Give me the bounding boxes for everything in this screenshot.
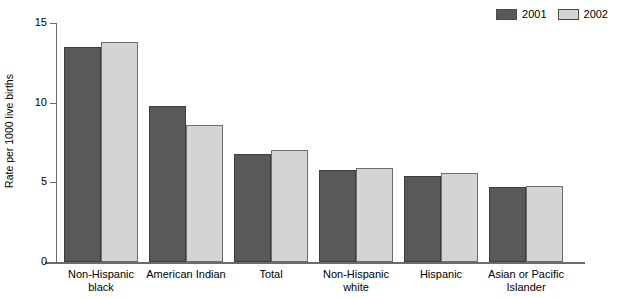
legend-swatch-2001 bbox=[496, 9, 517, 20]
bar-2001 bbox=[489, 187, 526, 262]
y-axis-title: Rate per 1000 live births bbox=[1, 0, 17, 262]
y-tick-10 bbox=[50, 103, 56, 104]
bar-2001 bbox=[234, 154, 271, 262]
bar-2002 bbox=[186, 125, 223, 262]
bar-2001 bbox=[64, 47, 101, 262]
y-tick-5 bbox=[50, 182, 56, 183]
plot-area bbox=[57, 23, 585, 262]
legend-label-2001: 2001 bbox=[522, 9, 546, 20]
x-axis-label-line: Asian or Pacific bbox=[471, 268, 581, 281]
y-tick-0 bbox=[50, 262, 56, 263]
y-axis-title-text: Rate per 1000 live births bbox=[3, 74, 15, 188]
x-axis-line bbox=[45, 262, 585, 264]
bar-2002 bbox=[101, 42, 138, 262]
legend-item-2002: 2002 bbox=[558, 9, 608, 20]
legend-label-2002: 2002 bbox=[584, 9, 608, 20]
bar-group bbox=[64, 23, 138, 262]
bar-2001 bbox=[404, 176, 441, 262]
bar-2002 bbox=[356, 168, 393, 262]
y-tick-label-15: 15 bbox=[26, 17, 47, 28]
x-axis-label-line: Islander bbox=[471, 281, 581, 294]
chart-legend: 2001 2002 bbox=[496, 9, 608, 20]
bar-2002 bbox=[526, 186, 563, 262]
x-axis-label-line: black bbox=[46, 281, 156, 294]
y-tick-label-5: 5 bbox=[26, 176, 47, 187]
x-axis-label: Asian or PacificIslander bbox=[471, 268, 581, 293]
bar-2002 bbox=[271, 150, 308, 262]
bar-chart: 2001 2002 Rate per 1000 live births 1510… bbox=[0, 0, 620, 298]
y-tick-label-0: 0 bbox=[26, 256, 47, 267]
bar-group bbox=[149, 23, 223, 262]
y-tick-15 bbox=[50, 23, 56, 24]
bar-2001 bbox=[319, 170, 356, 262]
bar-2001 bbox=[149, 106, 186, 262]
y-tick-label-10: 10 bbox=[26, 97, 47, 108]
bar-group bbox=[489, 23, 563, 262]
x-axis-label-line: white bbox=[301, 281, 411, 294]
bar-group bbox=[319, 23, 393, 262]
legend-item-2001: 2001 bbox=[496, 9, 546, 20]
bar-2002 bbox=[441, 173, 478, 262]
bar-group bbox=[234, 23, 308, 262]
legend-swatch-2002 bbox=[558, 9, 579, 20]
bar-group bbox=[404, 23, 478, 262]
